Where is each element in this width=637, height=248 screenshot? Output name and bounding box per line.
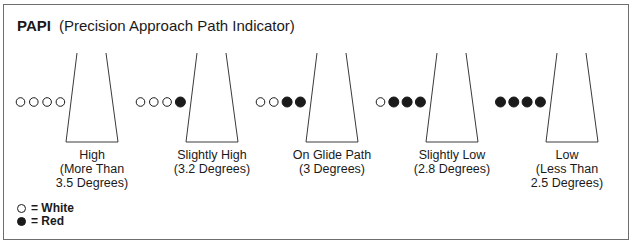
- runway-icon: [306, 53, 358, 142]
- caption-label: On Glide Path: [272, 148, 392, 162]
- red-light-icon: [522, 97, 532, 107]
- runway-icon: [66, 53, 118, 142]
- red-light-icon: [175, 97, 185, 107]
- white-light-icon: [136, 98, 145, 107]
- red-light-icon: [509, 97, 519, 107]
- white-light-icon: [256, 98, 265, 107]
- white-light-icon: [17, 204, 26, 213]
- red-light-icon: [389, 97, 399, 107]
- caption-detail: (3.2 Degrees): [152, 162, 272, 176]
- runway-icon: [546, 53, 598, 142]
- white-light-icon: [270, 98, 279, 107]
- white-light-icon: [376, 98, 385, 107]
- caption-slightly-high: Slightly High (3.2 Degrees): [152, 148, 272, 176]
- caption-label: Slightly Low: [392, 148, 512, 162]
- indication-high: [16, 53, 118, 142]
- red-light-icon: [415, 97, 425, 107]
- runway-groups: [16, 53, 598, 142]
- caption-label: High: [32, 148, 152, 162]
- white-light-icon: [150, 98, 159, 107]
- white-light-icon: [16, 98, 25, 107]
- papi-indications: [0, 0, 637, 248]
- red-light-icon: [282, 97, 292, 107]
- caption-detail: (2.8 Degrees): [392, 162, 512, 176]
- red-light-icon: [402, 97, 412, 107]
- indication-slightly-high: [136, 53, 238, 142]
- indication-on-glide-path: [256, 53, 358, 142]
- caption-slightly-low: Slightly Low (2.8 Degrees): [392, 148, 512, 176]
- caption-detail: (3 Degrees): [272, 162, 392, 176]
- caption-detail: (Less Than: [507, 162, 627, 176]
- indication-slightly-low: [376, 53, 478, 142]
- legend: = White = Red: [17, 202, 74, 228]
- runway-icon: [186, 53, 238, 142]
- white-light-icon: [56, 98, 65, 107]
- white-light-icon: [30, 98, 39, 107]
- white-light-icon: [163, 98, 172, 107]
- legend-label-red: = Red: [31, 215, 64, 228]
- white-light-icon: [43, 98, 52, 107]
- caption-low: Low (Less Than 2.5 Degrees): [507, 148, 627, 190]
- runway-icon: [426, 53, 478, 142]
- caption-detail: 2.5 Degrees): [507, 176, 627, 190]
- red-light-icon: [496, 97, 506, 107]
- red-light-icon: [295, 97, 305, 107]
- red-light-icon: [17, 217, 26, 226]
- caption-on-glide-path: On Glide Path (3 Degrees): [272, 148, 392, 176]
- indication-low: [496, 53, 599, 142]
- caption-label: Slightly High: [152, 148, 272, 162]
- caption-detail: 3.5 Degrees): [32, 176, 152, 190]
- caption-label: Low: [507, 148, 627, 162]
- red-light-icon: [535, 97, 545, 107]
- caption-detail: (More Than: [32, 162, 152, 176]
- legend-item-red: = Red: [17, 215, 74, 228]
- caption-high: High (More Than 3.5 Degrees): [32, 148, 152, 190]
